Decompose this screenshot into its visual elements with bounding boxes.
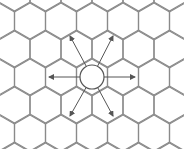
hex-cell [169,59,184,95]
hex-cell [0,59,15,95]
arrow-upper-right [97,36,113,66]
center-circle [80,65,104,89]
arrow-upper-left [70,36,86,66]
arrow-lower-right [98,88,113,116]
hex-grid [0,0,184,149]
arrow-lower-left [70,87,86,116]
hex-diagram [0,0,184,149]
hex-cell [0,3,15,39]
hex-grid-canvas [0,0,184,149]
hex-cell [169,3,184,39]
